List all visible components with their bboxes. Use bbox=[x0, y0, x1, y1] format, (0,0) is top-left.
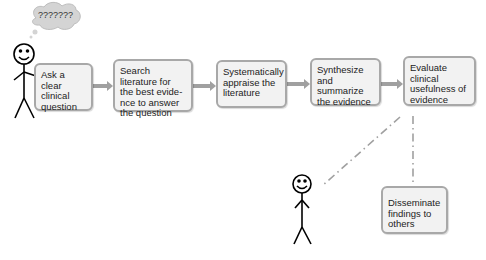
thought-bubble bbox=[30, 2, 81, 38]
dashdot-line-to-audience bbox=[322, 117, 400, 186]
step-appraise-literature: Systematically appraise the literature bbox=[216, 60, 287, 108]
arrow-synthesize-to-evaluate bbox=[381, 79, 403, 89]
thought-bubble-text: ??????? bbox=[38, 10, 73, 20]
step-evaluate-usefulness: Evaluate clinical usefulness of evidence bbox=[403, 56, 476, 106]
step-disseminate-findings: Disseminate findings to others bbox=[381, 186, 448, 234]
arrow-appraise-to-synthesize bbox=[287, 79, 310, 89]
arrow-search-to-appraise bbox=[193, 81, 216, 91]
stick-figure-questioner bbox=[14, 44, 36, 118]
step-search-literature: Search literature for the best evide-nce… bbox=[113, 59, 193, 112]
arrow-ask-to-search bbox=[92, 81, 113, 91]
step-synthesize-evidence: Synthesize and summarize the evidence bbox=[310, 58, 381, 106]
stick-figure-audience bbox=[293, 175, 311, 244]
step-ask-question: Ask a clear clinical question bbox=[34, 63, 93, 111]
